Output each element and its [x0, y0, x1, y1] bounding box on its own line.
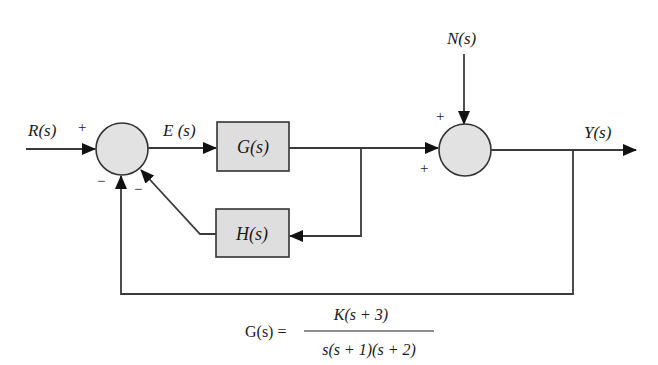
sum1-outer-minus-sign: − — [97, 173, 105, 189]
feedback-block-label: H(s) — [235, 224, 268, 245]
disturbance-signal-label: N(s) — [446, 29, 477, 48]
input-signal-label: R(s) — [27, 121, 57, 140]
h-output-wire — [141, 170, 216, 234]
forward-block-label: G(s) — [237, 137, 269, 158]
error-signal-label: E (s) — [162, 121, 196, 140]
transfer-function-equation: G(s) = K(s + 3) s(s + 1)(s + 2) — [245, 306, 434, 359]
summing-junction-1 — [96, 123, 148, 175]
sum1-inner-minus-sign: − — [134, 181, 142, 197]
sum2-left-plus-sign: + — [420, 160, 428, 176]
summing-junction-2 — [439, 124, 491, 176]
equation-numerator: K(s + 3) — [333, 306, 388, 324]
sum1-plus-sign: + — [78, 119, 86, 135]
output-signal-label: Y(s) — [584, 123, 612, 142]
equation-denominator: s(s + 1)(s + 2) — [322, 341, 416, 359]
equation-lhs: G(s) = — [245, 323, 286, 341]
inner-feedback-wire — [290, 148, 361, 236]
sum2-top-plus-sign: + — [436, 108, 444, 124]
block-diagram: R(s) + E (s) G(s) H(s) − − N(s) + + Y(s)… — [0, 0, 658, 365]
